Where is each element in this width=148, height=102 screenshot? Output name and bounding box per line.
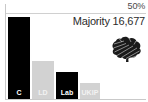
bar-c[interactable]: C <box>8 17 30 99</box>
bar-chart: 50% Majority 16,677 C <box>0 0 148 102</box>
bar-ukip[interactable]: UKIP <box>80 83 100 99</box>
bar-label-lab: Lab <box>56 89 78 97</box>
x-axis-line <box>5 99 146 100</box>
bars-container: C LD Lab UKIP <box>6 4 146 99</box>
bar-label-ukip: UKIP <box>80 89 100 97</box>
bar-ld[interactable]: LD <box>32 61 54 99</box>
bar-lab[interactable]: Lab <box>56 72 78 99</box>
bar-label-c: C <box>8 89 30 97</box>
bar-label-ld: LD <box>32 89 54 97</box>
